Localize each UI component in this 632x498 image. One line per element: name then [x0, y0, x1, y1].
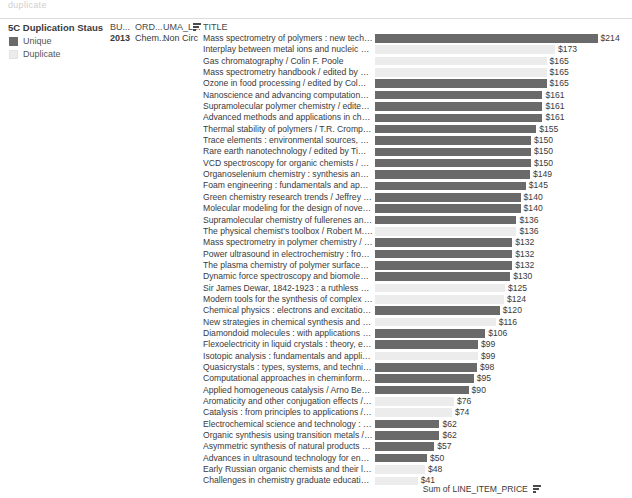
bar-row-title: Organoselenium chemistry : synthesis and…	[203, 169, 373, 180]
bar-row[interactable]: Supramolecular polymer chemistry / edite…	[0, 101, 632, 112]
bar-value-label: $165	[550, 67, 569, 78]
bar-row[interactable]: Organic synthesis using transition metal…	[0, 430, 632, 441]
bar-row[interactable]: Ozone in food processing / edited by Col…	[0, 78, 632, 89]
bar-row[interactable]: Molecular modeling for the design of nov…	[0, 203, 632, 214]
bar-row[interactable]: Advances in ultrasound technology for en…	[0, 453, 632, 464]
bar-unique[interactable]	[375, 102, 542, 111]
bar-unique[interactable]	[375, 148, 531, 157]
bar-duplicate[interactable]	[375, 318, 496, 327]
bar-row[interactable]: Organoselenium chemistry : synthesis and…	[0, 169, 632, 180]
bar-duplicate[interactable]	[375, 284, 505, 293]
bar-unique[interactable]	[375, 306, 500, 315]
x-axis-title[interactable]: Sum of LINE_ITEM_PRICE	[375, 484, 589, 494]
bar-unique[interactable]	[375, 170, 530, 179]
bar-row-title: Thermal stability of polymers / T.R. Cro…	[203, 124, 373, 135]
column-header-title[interactable]: TITLE	[203, 22, 228, 32]
bar-unique[interactable]	[375, 261, 512, 270]
bar-value-label: $124	[507, 294, 526, 305]
bar-row-title: Supramolecular polymer chemistry / edite…	[203, 101, 373, 112]
axis-sort-icon[interactable]	[533, 485, 541, 493]
bar-unique[interactable]	[375, 125, 536, 134]
bar-unique[interactable]	[375, 420, 439, 429]
bar-unique[interactable]	[375, 114, 542, 123]
bar-row[interactable]: Asymmetric synthesis of natural products…	[0, 441, 632, 452]
bar-row[interactable]: Trace elements : environmental sources, …	[0, 135, 632, 146]
cut-off-top-text: duplicate	[8, 0, 47, 12]
bar-value-label: $155	[539, 124, 558, 135]
bar-duplicate[interactable]	[375, 57, 547, 66]
bar-row[interactable]: Flexoelectricity in liquid crystals : th…	[0, 339, 632, 350]
bar-unique[interactable]	[375, 136, 531, 145]
bar-row-title: The plasma chemistry of polymer surfaces…	[203, 260, 373, 271]
title-sort-icon[interactable]	[193, 22, 201, 32]
bar-row-title: Electrochemical science and technology :…	[203, 419, 373, 430]
bar-row[interactable]: Mass spectrometry of polymers : new tech…	[0, 33, 632, 44]
bar-unique[interactable]	[375, 363, 477, 372]
bar-unique[interactable]	[375, 182, 526, 191]
column-header-bu[interactable]: BU...	[110, 22, 130, 32]
bar-row[interactable]: Advanced methods and applications in che…	[0, 112, 632, 123]
bar-value-label: $95	[477, 373, 491, 384]
bar-row[interactable]: Foam engineering : fundamentals and appl…	[0, 180, 632, 191]
bar-unique[interactable]	[375, 204, 521, 213]
bar-row[interactable]: New strategies in chemical synthesis and…	[0, 317, 632, 328]
bar-duplicate[interactable]	[375, 352, 478, 361]
bar-unique[interactable]	[375, 374, 474, 383]
bar-row[interactable]: The plasma chemistry of polymer surfaces…	[0, 260, 632, 271]
bar-row[interactable]: Applied homogeneous catalysis / Arno Beh…	[0, 385, 632, 396]
bar-unique[interactable]	[375, 454, 427, 463]
bar-row-title: Isotopic analysis : fundamentals and app…	[203, 351, 373, 362]
bar-unique[interactable]	[375, 91, 542, 100]
bar-value-label: $165	[550, 78, 569, 89]
bar-unique[interactable]	[375, 442, 434, 451]
bar-row[interactable]: Diamondoid molecules : with applications…	[0, 328, 632, 339]
bar-row[interactable]: Chemical physics : electrons and excitat…	[0, 305, 632, 316]
bar-row[interactable]: Electrochemical science and technology :…	[0, 419, 632, 430]
bar-unique[interactable]	[375, 329, 485, 338]
bar-duplicate[interactable]	[375, 45, 555, 54]
bar-unique[interactable]	[375, 216, 516, 225]
bar-value-label: $161	[545, 112, 564, 123]
bar-row-title: Catalysis : from principles to applicati…	[203, 407, 373, 418]
bar-value-label: $130	[513, 271, 532, 282]
column-header-ord[interactable]: ORD...	[135, 22, 163, 32]
bar-row-title: Applied homogeneous catalysis / Arno Beh…	[203, 385, 373, 396]
bar-unique[interactable]	[375, 431, 439, 440]
bar-unique[interactable]	[375, 386, 469, 395]
bar-row[interactable]: Power ultrasound in electrochemistry : f…	[0, 249, 632, 260]
bar-row[interactable]: Gas chromatography / Colin F. Poole$165	[0, 56, 632, 67]
bar-row[interactable]: Catalysis : from principles to applicati…	[0, 407, 632, 418]
bar-unique[interactable]	[375, 340, 478, 349]
bar-unique[interactable]	[375, 34, 598, 43]
bar-unique[interactable]	[375, 159, 531, 168]
bar-row[interactable]: Green chemistry research trends / Jeffre…	[0, 192, 632, 203]
bar-row-title: VCD spectroscopy for organic chemists / …	[203, 158, 373, 169]
bar-duplicate[interactable]	[375, 68, 547, 77]
legend-title: 5C Duplication Staus	[8, 22, 104, 33]
bar-duplicate[interactable]	[375, 295, 504, 304]
bar-unique[interactable]	[375, 238, 512, 247]
bar-row[interactable]: Interplay between metal ions and nucleic…	[0, 44, 632, 55]
bar-unique[interactable]	[375, 79, 547, 88]
bar-row[interactable]: Sir James Dewar, 1842-1923 : a ruthless …	[0, 283, 632, 294]
bar-row[interactable]: Quasicrystals : types, systems, and tech…	[0, 362, 632, 373]
bar-row[interactable]: VCD spectroscopy for organic chemists / …	[0, 158, 632, 169]
bar-row[interactable]: Mass spectrometry in polymer chemistry /…	[0, 237, 632, 248]
bar-row[interactable]: Modern tools for the synthesis of comple…	[0, 294, 632, 305]
bar-row[interactable]: Aromaticity and other conjugation effect…	[0, 396, 632, 407]
bar-row[interactable]: Thermal stability of polymers / T.R. Cro…	[0, 124, 632, 135]
bar-row[interactable]: Rare earth nanotechnology / edited by Ti…	[0, 146, 632, 157]
bar-row[interactable]: Computational approaches in cheminformat…	[0, 373, 632, 384]
bar-row[interactable]: The physical chemist's toolbox / Robert …	[0, 226, 632, 237]
bar-row[interactable]: Nanoscience and advancing computational …	[0, 90, 632, 101]
bar-row[interactable]: Supramolecular chemistry of fullerenes a…	[0, 215, 632, 226]
bar-unique[interactable]	[375, 193, 521, 202]
bar-row[interactable]: Dynamic force spectroscopy and biomolecu…	[0, 271, 632, 282]
bar-unique[interactable]	[375, 250, 512, 259]
bar-row[interactable]: Isotopic analysis : fundamentals and app…	[0, 351, 632, 362]
bar-duplicate[interactable]	[375, 397, 454, 406]
bar-unique[interactable]	[375, 272, 510, 281]
bar-duplicate[interactable]	[375, 227, 516, 236]
bar-row[interactable]: Mass spectrometry handbook / edited by M…	[0, 67, 632, 78]
bar-duplicate[interactable]	[375, 408, 452, 417]
